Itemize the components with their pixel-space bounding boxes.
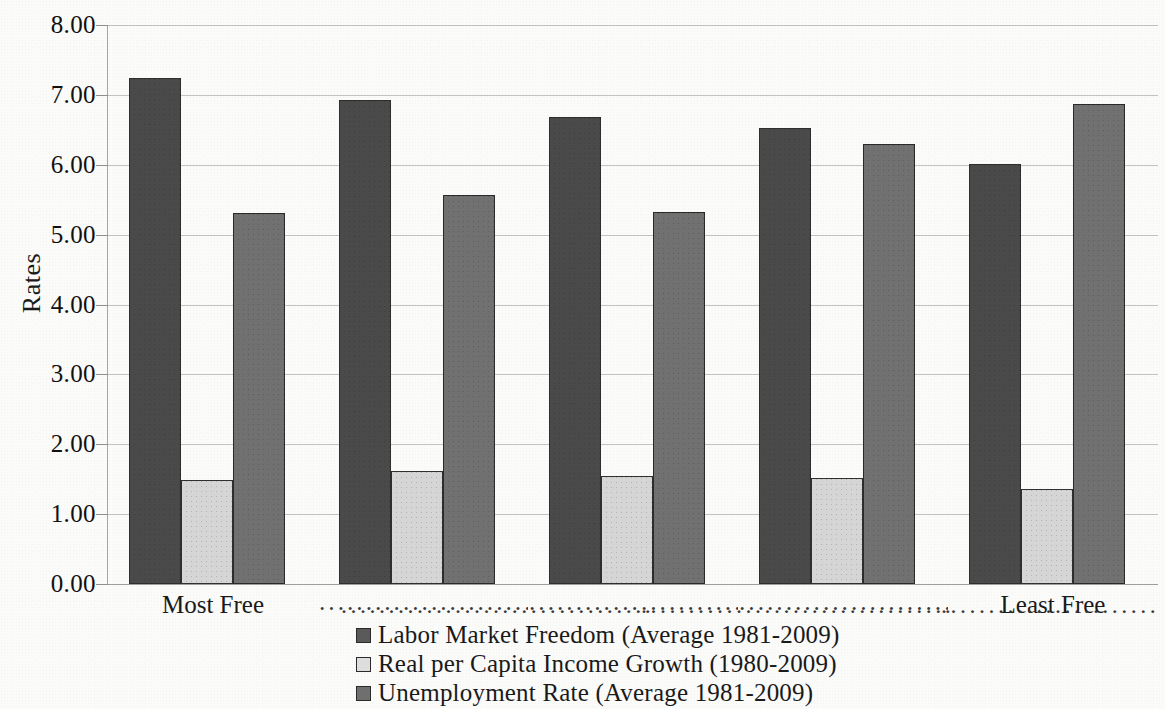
legend-item[interactable]: Labor Market Freedom (Average 1981-2009) bbox=[356, 620, 956, 649]
chart-legend: Labor Market Freedom (Average 1981-2009)… bbox=[356, 620, 956, 707]
legend-label: Labor Market Freedom (Average 1981-2009) bbox=[378, 621, 840, 648]
y-axis-tickmark bbox=[96, 305, 108, 306]
y-axis-tick-label: 1.00 bbox=[8, 501, 96, 526]
bar bbox=[759, 128, 811, 584]
bar bbox=[181, 480, 233, 584]
y-axis-tickmark bbox=[96, 235, 108, 236]
y-axis-tickmark bbox=[96, 95, 108, 96]
bar bbox=[863, 144, 915, 584]
dot-leader: ································· bbox=[940, 598, 1160, 618]
legend-swatch-icon bbox=[356, 657, 371, 672]
y-axis-tick-label: 3.00 bbox=[8, 361, 96, 386]
legend-swatch-icon bbox=[356, 628, 371, 643]
bar bbox=[601, 476, 653, 584]
y-axis-tickmark bbox=[96, 584, 108, 585]
legend-label: Real per Capita Income Growth (1980-2009… bbox=[378, 650, 837, 677]
y-axis-tick-label: 0.00 bbox=[8, 571, 96, 596]
gridline bbox=[108, 95, 1158, 96]
y-axis-tick-label: 2.00 bbox=[8, 431, 96, 456]
gridline bbox=[108, 25, 1158, 26]
bar bbox=[653, 212, 705, 584]
bar bbox=[549, 117, 601, 584]
bar bbox=[443, 195, 495, 584]
legend-label: Unemployment Rate (Average 1981-2009) bbox=[378, 679, 813, 706]
y-axis-tick-label: 6.00 bbox=[8, 152, 96, 177]
bar bbox=[811, 478, 863, 584]
bar bbox=[339, 100, 391, 584]
y-axis-tick-label: 8.00 bbox=[8, 12, 96, 37]
bar bbox=[233, 213, 285, 584]
bar bbox=[129, 78, 181, 584]
y-axis-tickmark bbox=[96, 374, 108, 375]
y-axis-tickmark bbox=[96, 514, 108, 515]
y-axis-tickmark bbox=[96, 25, 108, 26]
dot-leader: ································· bbox=[640, 598, 953, 618]
plot-area bbox=[108, 25, 1158, 584]
y-axis-tickmark bbox=[96, 165, 108, 166]
y-axis-tick-label: 5.00 bbox=[8, 222, 96, 247]
chart-figure: Rates 8.007.006.005.004.003.002.001.000.… bbox=[0, 0, 1165, 709]
bar bbox=[1021, 489, 1073, 584]
dot-leader-row: ········································… bbox=[340, 598, 1160, 618]
y-axis-tick-label: 4.00 bbox=[8, 292, 96, 317]
y-axis-tickmark bbox=[96, 444, 108, 445]
legend-swatch-icon bbox=[356, 686, 371, 701]
y-axis-tick-label: 7.00 bbox=[8, 82, 96, 107]
bar bbox=[969, 164, 1021, 584]
gridline bbox=[108, 584, 1158, 585]
x-axis-tick-label: Most Free bbox=[108, 590, 318, 620]
y-axis-tick-labels: 8.007.006.005.004.003.002.001.000.00 bbox=[0, 0, 96, 709]
bar bbox=[391, 471, 443, 584]
dot-leader: ································· bbox=[340, 598, 653, 618]
legend-item[interactable]: Unemployment Rate (Average 1981-2009) bbox=[356, 678, 956, 707]
bar bbox=[1073, 104, 1125, 584]
legend-item[interactable]: Real per Capita Income Growth (1980-2009… bbox=[356, 649, 956, 678]
